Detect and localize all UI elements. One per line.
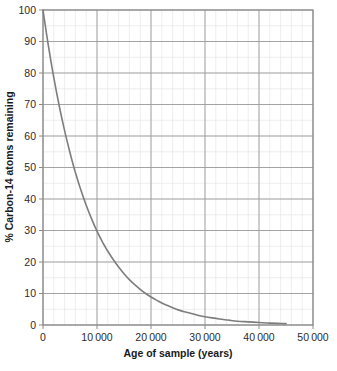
y-axis-tick-labels: 0102030405060708090100 — [18, 4, 36, 331]
tick-label-y: 40 — [24, 193, 36, 205]
tick-label-y: 100 — [18, 4, 36, 16]
tick-label-x: 20 000 — [135, 331, 166, 343]
chart-canvas: 010 00020 00030 00040 00050 000 01020304… — [0, 0, 337, 371]
y-axis-title: % Carbon-14 atoms remaining — [3, 91, 15, 242]
x-axis-tick-marks — [43, 325, 313, 329]
tick-label-y: 30 — [24, 224, 36, 236]
tick-label-x: 10 000 — [81, 331, 112, 343]
tick-label-x: 0 — [40, 331, 46, 343]
tick-label-x: 50 000 — [297, 331, 328, 343]
carbon-14-decay-chart: 010 00020 00030 00040 00050 000 01020304… — [0, 0, 337, 371]
tick-label-y: 90 — [24, 35, 36, 47]
tick-label-x: 40 000 — [243, 331, 274, 343]
x-axis-title: Age of sample (years) — [123, 347, 232, 359]
tick-label-y: 10 — [24, 287, 36, 299]
tick-label-y: 50 — [24, 161, 36, 173]
tick-label-y: 0 — [30, 319, 36, 331]
tick-label-y: 20 — [24, 256, 36, 268]
tick-label-y: 60 — [24, 130, 36, 142]
tick-label-y: 80 — [24, 67, 36, 79]
tick-label-y: 70 — [24, 98, 36, 110]
tick-label-x: 30 000 — [189, 331, 220, 343]
x-axis-tick-labels: 010 00020 00030 00040 00050 000 — [40, 331, 329, 343]
y-axis-tick-marks — [39, 10, 43, 325]
